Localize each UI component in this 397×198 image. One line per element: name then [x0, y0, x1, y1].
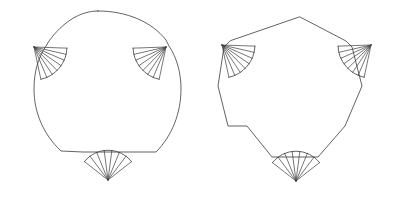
canvas-background: [0, 0, 397, 198]
figure-canvas: [0, 0, 397, 198]
